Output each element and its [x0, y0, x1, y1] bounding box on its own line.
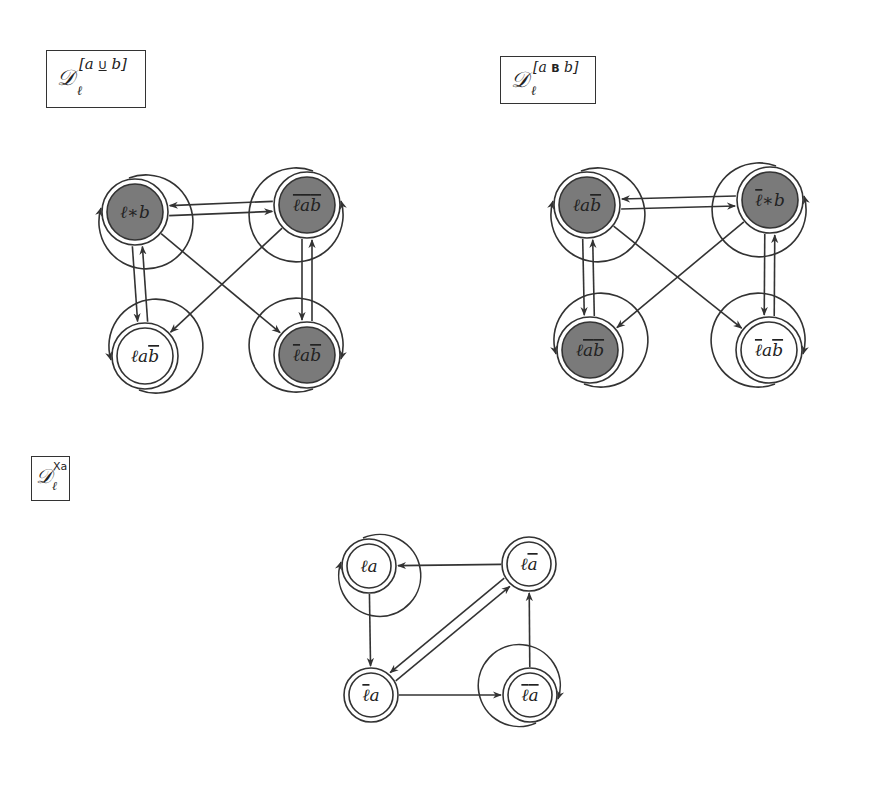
node-label: ℓab — [755, 340, 783, 360]
edge-n2-to-n3 — [617, 222, 744, 328]
state-node: ℓab — [554, 172, 620, 238]
state-node: ℓ∗b — [102, 179, 168, 245]
state-node: ℓab — [736, 317, 802, 383]
edge-n1-to-n3 — [132, 246, 137, 321]
nodes-layer: ℓ∗bℓabℓabℓabℓabℓ∗bℓabℓabℓaℓaℓaℓa — [102, 167, 803, 722]
node-label: ℓa — [521, 685, 538, 705]
edge-n4-to-n2 — [529, 593, 530, 667]
edge-n1-to-n3 — [583, 239, 585, 315]
state-node: ℓab — [274, 172, 340, 238]
state-node: ℓab — [112, 323, 178, 389]
node-label: ℓab — [293, 345, 321, 365]
edge-n3-to-n1 — [142, 247, 147, 322]
state-node: ℓab — [274, 322, 340, 388]
edges-layer — [99, 163, 806, 727]
edge-n1-to-n3 — [369, 594, 370, 666]
node-label: ℓab — [573, 195, 601, 215]
edge-n1-to-n2 — [621, 206, 735, 209]
state-node: ℓ∗b — [737, 167, 803, 233]
edge-n1-to-n2 — [169, 211, 272, 215]
edge-n4-to-n2 — [774, 235, 775, 316]
state-node: ℓa — [342, 539, 396, 593]
node-label: ℓ∗b — [755, 190, 785, 210]
edge-n2-to-n1 — [622, 196, 736, 199]
node-label: ℓa — [362, 685, 379, 705]
state-node: ℓa — [344, 668, 398, 722]
node-label: ℓa — [360, 556, 377, 576]
diagram-canvas: ℓ∗bℓabℓabℓabℓabℓ∗bℓabℓabℓaℓaℓaℓa — [0, 0, 878, 811]
state-node: ℓa — [503, 668, 557, 722]
node-label: ℓab — [576, 340, 604, 360]
edge-n2-to-n3 — [390, 578, 504, 673]
edge-n3-to-n1 — [593, 240, 595, 316]
edge-n2-to-n1 — [398, 564, 501, 565]
node-label: ℓa — [520, 554, 537, 574]
state-node: ℓab — [557, 317, 623, 383]
node-label: ℓab — [293, 195, 321, 215]
node-label: ℓ∗b — [120, 202, 150, 222]
state-node: ℓa — [502, 537, 556, 591]
edge-n2-to-n1 — [170, 201, 273, 205]
edge-n2-to-n4 — [764, 234, 765, 315]
node-label: ℓab — [131, 346, 159, 366]
